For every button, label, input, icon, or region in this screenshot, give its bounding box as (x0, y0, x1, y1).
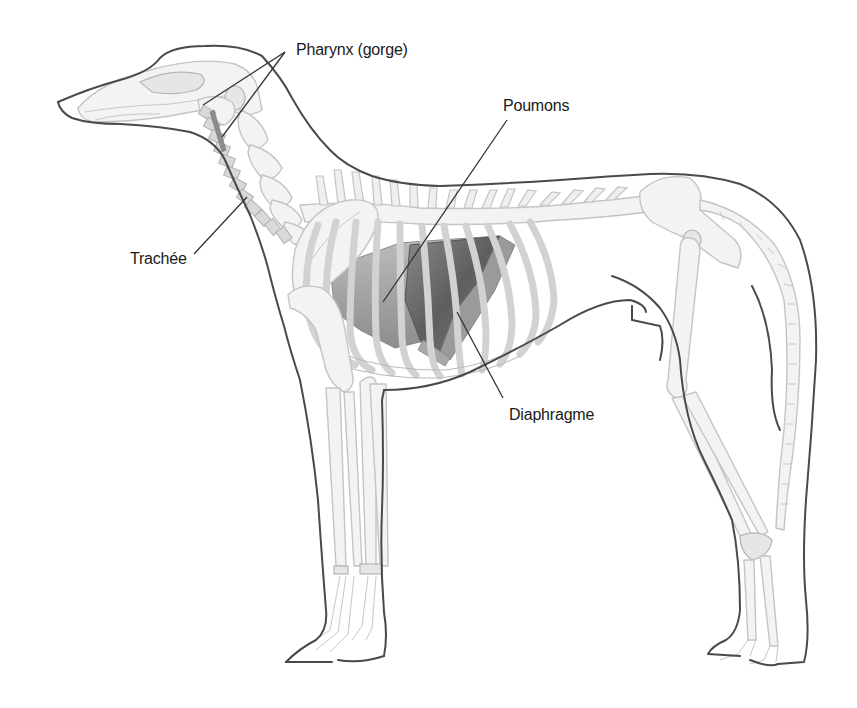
leader-line-trachee (194, 197, 247, 254)
skull (78, 61, 262, 125)
label-diaphragme: Diaphragme (509, 407, 594, 423)
hind-legs (667, 238, 778, 664)
label-trachee: Trachée (130, 251, 187, 267)
label-poumons: Poumons (503, 98, 569, 114)
leader-line-diaphragme (457, 312, 503, 398)
front-legs (288, 286, 388, 652)
label-pharynx: Pharynx (gorge) (296, 42, 408, 58)
dog-respiratory-diagram (0, 0, 857, 708)
